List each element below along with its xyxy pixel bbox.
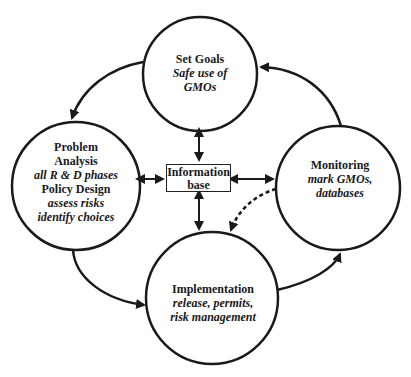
problem-analysis-title-1: Problem — [14, 140, 138, 154]
arrow-implementation-to-monitoring — [277, 254, 340, 290]
set-goals-detail-2: GMOs — [150, 80, 250, 94]
implementation-title: Implementation — [150, 282, 276, 296]
set-goals-detail-1: Safe use of — [150, 66, 250, 80]
implementation-label: Implementation release, permits, risk ma… — [150, 282, 276, 324]
monitoring-title: Monitoring — [295, 158, 385, 172]
implementation-detail-2: risk management — [150, 310, 276, 324]
problem-analysis-detail-2: assess risks — [14, 196, 138, 210]
monitoring-detail-2: databases — [295, 186, 385, 200]
problem-analysis-detail-1: all R & D phases — [14, 168, 138, 182]
problem-analysis-label: Problem Analysis all R & D phases Policy… — [14, 140, 138, 224]
set-goals-label: Set Goals Safe use of GMOs — [150, 52, 250, 94]
arrow-monitoring-to-goals — [261, 67, 341, 126]
policy-design-title: Policy Design — [14, 182, 138, 196]
information-base-line-2: base — [167, 179, 230, 192]
problem-analysis-detail-3: identify choices — [14, 210, 138, 224]
problem-analysis-title-2: Analysis — [14, 154, 138, 168]
implementation-detail-1: release, permits, — [150, 296, 276, 310]
monitoring-detail-1: mark GMOs, — [295, 172, 385, 186]
dashed-arrow-monitoring-to-implementation — [231, 189, 276, 230]
arrow-goals-to-analysis — [72, 62, 143, 118]
information-base-box: Information base — [166, 164, 231, 192]
monitoring-label: Monitoring mark GMOs, databases — [295, 158, 385, 200]
arrow-analysis-to-implementation — [73, 250, 144, 305]
set-goals-title: Set Goals — [150, 52, 250, 66]
